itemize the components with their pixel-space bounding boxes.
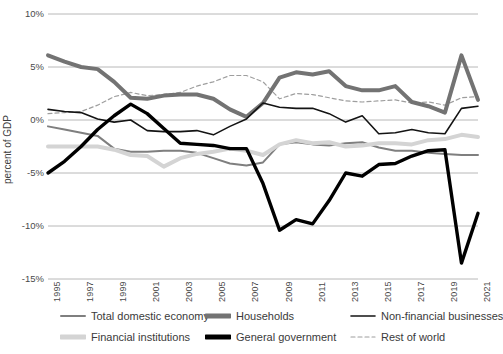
series-line [48,55,478,116]
x-axis-tick: 2019 [449,281,459,302]
x-axis-tick: 2013 [350,281,360,302]
x-axis-tick: 2007 [250,281,260,302]
legend-swatch-icon [205,331,231,343]
legend-label: Total domestic economy [91,310,209,322]
y-axis-tick: 5% [4,62,44,71]
legend-item[interactable]: Financial institutions [60,331,190,343]
x-axis-tick: 2017 [416,281,426,302]
legend-swatch-icon [205,310,231,322]
chart-plot-svg [48,14,478,279]
legend-label: General government [236,331,336,343]
x-axis-tick: 2021 [482,281,492,302]
x-axis-tick: 1995 [52,281,62,302]
legend-label: Non-financial businesses [381,310,503,322]
y-axis-tick: 0% [4,115,44,124]
x-axis-tick: 2005 [217,281,227,302]
x-axis-tick: 1997 [85,281,95,302]
x-axis-tick: 2009 [284,281,294,302]
y-axis-tick: -5% [4,168,44,177]
x-axis-tick: 2015 [383,281,393,302]
legend-item[interactable]: General government [205,331,336,343]
legend-swatch-icon [60,331,86,343]
chart-legend: Total domestic economyHouseholdsNon-fina… [0,306,493,354]
legend-item[interactable]: Total domestic economy [60,310,209,322]
x-axis-tick: 2003 [184,281,194,302]
legend-label: Households [236,310,294,322]
y-axis-tick-labels: 10%5%0%-5%-10%-15% [0,0,44,290]
x-axis-tick-labels: 1995199719992001200320052007200920112013… [0,276,493,308]
y-axis-tick: 10% [4,9,44,18]
y-axis-tick: -10% [4,221,44,230]
x-axis-tick: 1999 [118,281,128,302]
legend-item[interactable]: Non-financial businesses [350,310,503,322]
legend-label: Rest of world [381,331,445,343]
legend-item[interactable]: Rest of world [350,331,445,343]
x-axis-tick: 2011 [317,282,327,302]
legend-swatch-icon [350,331,376,343]
x-axis-tick: 2001 [151,281,161,302]
legend-swatch-icon [350,310,376,322]
plot-area [48,14,478,279]
legend-swatch-icon [60,310,86,322]
legend-label: Financial institutions [91,331,190,343]
series-line [48,104,478,263]
legend-item[interactable]: Households [205,310,294,322]
